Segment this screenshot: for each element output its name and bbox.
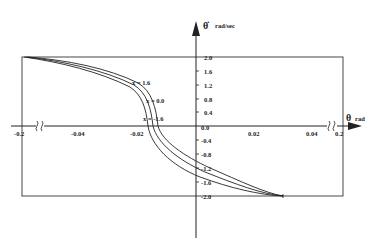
x-axis: -0.2 -0.04 -0.02 0.02 0.04 0.2 θ rad bbox=[11, 112, 365, 137]
y-tick-label: 0.4 bbox=[204, 109, 213, 116]
axis-break-left-icon bbox=[36, 121, 43, 131]
x-axis-arrow-icon bbox=[348, 122, 362, 130]
x-tick-label: 0.04 bbox=[306, 130, 318, 137]
x-tick-label: 0.2 bbox=[335, 130, 343, 137]
y-tick-label: -0.4 bbox=[201, 137, 212, 144]
y-tick-label: 2.0 bbox=[204, 54, 212, 61]
y-tick-label: -2.0 bbox=[201, 193, 211, 200]
x-axis-symbol: θ bbox=[346, 112, 351, 123]
axis-break-right-icon bbox=[328, 121, 335, 131]
y-axis: θ̇ rad/sec 2.0 1.6 1.2 0.8 0.4 0.0 -0.4 … bbox=[192, 20, 235, 238]
x-tick-label: -0.04 bbox=[71, 130, 85, 137]
phase-plane-chart: -0.2 -0.04 -0.02 0.02 0.04 0.2 θ rad θ̇ … bbox=[0, 0, 378, 251]
y-tick-label: 1.6 bbox=[204, 68, 213, 75]
x-tick-label: -0.2 bbox=[14, 130, 24, 137]
y-tick-label: -0.8 bbox=[201, 151, 212, 158]
y-axis-symbol: θ̇ bbox=[203, 20, 209, 31]
y-tick-label: 1.2 bbox=[204, 82, 212, 89]
curve-label-x-1.6: x = 1.6 bbox=[132, 79, 151, 86]
y-tick-label: 0.0 bbox=[201, 124, 209, 131]
x-tick-label: 0.02 bbox=[248, 130, 259, 137]
y-tick-label: 0.8 bbox=[204, 96, 213, 103]
x-axis-unit: rad bbox=[355, 115, 365, 122]
curve-label-x-0.0: x = 0.0 bbox=[146, 97, 164, 104]
y-axis-unit: rad/sec bbox=[215, 22, 235, 29]
curve-label-x-neg-1.6: x = -1.6 bbox=[143, 115, 164, 122]
x-tick-label: -0.02 bbox=[130, 130, 144, 137]
y-axis-arrow-icon bbox=[192, 21, 200, 36]
y-tick-label: -1.6 bbox=[201, 179, 212, 186]
